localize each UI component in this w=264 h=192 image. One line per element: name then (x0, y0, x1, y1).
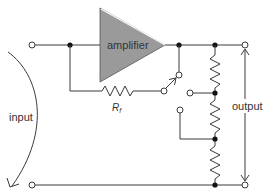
switch-common-terminal (161, 88, 167, 94)
output-label: output (232, 100, 263, 112)
amplifier: amplifier (100, 8, 165, 82)
output-top-terminal (242, 42, 248, 48)
divider-resistor-top (210, 55, 220, 88)
switch-contact-2 (187, 90, 193, 96)
input-label: input (9, 111, 33, 123)
amplifier-label: amplifier (107, 39, 149, 51)
feedback-resistor-rf (102, 86, 133, 96)
junction-node-bottom (212, 182, 217, 187)
switch-contact-3-wire (180, 113, 215, 139)
switch-contact-3 (177, 107, 183, 113)
input-top-terminal (29, 42, 35, 48)
divider-resistor-bottom (210, 146, 220, 179)
junction-node-tap-1 (212, 90, 217, 95)
junction-node-tap-2 (212, 136, 217, 141)
rf-label: Rf (112, 102, 122, 114)
input-arrowhead-icon (7, 178, 19, 187)
input-bottom-terminal (29, 182, 35, 188)
switch-arm[interactable] (166, 78, 176, 88)
circuit-diagram: input amplifier Rf output (0, 0, 264, 192)
switch-contact-1 (176, 72, 182, 78)
output-bottom-terminal (242, 182, 248, 188)
feedback-wire (70, 45, 102, 91)
divider-resistor-middle (210, 100, 220, 133)
